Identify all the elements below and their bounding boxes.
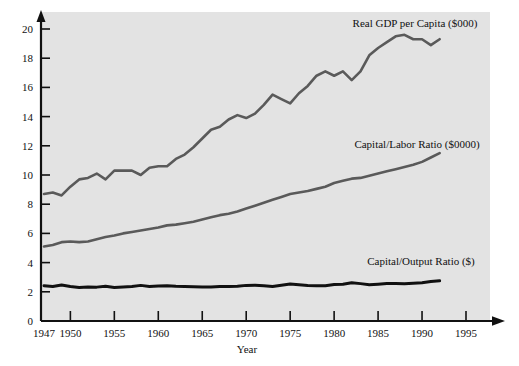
series-label: Real GDP per Capita ($000) <box>353 17 478 30</box>
y-tick-label: 2 <box>28 286 34 298</box>
economic-indicators-line-chart: 02468101214161820 1947195019551960196519… <box>0 0 519 366</box>
y-tick-label: 10 <box>22 169 34 181</box>
y-tick-label: 16 <box>22 81 34 93</box>
y-tick-label: 0 <box>28 315 34 327</box>
y-tick-label: 6 <box>28 227 34 239</box>
x-tick-label: 1947 <box>33 327 56 339</box>
x-tick-label: 1960 <box>147 327 170 339</box>
y-tick-label: 12 <box>22 140 33 152</box>
y-tick-label: 14 <box>22 111 34 123</box>
y-tick-label: 4 <box>28 257 34 269</box>
x-tick-label: 1985 <box>367 327 390 339</box>
x-tick-label: 1950 <box>59 327 82 339</box>
x-tick-label: 1990 <box>411 327 434 339</box>
y-tick-label: 20 <box>22 23 34 35</box>
x-tick-label: 1965 <box>191 327 214 339</box>
series-label: Capital/Output Ratio ($) <box>367 255 475 268</box>
y-tick-label: 8 <box>28 198 34 210</box>
x-tick-label: 1980 <box>323 327 346 339</box>
chart-figure: 02468101214161820 1947195019551960196519… <box>0 0 519 366</box>
x-axis-title: Year <box>237 343 258 355</box>
x-tick-label: 1975 <box>279 327 302 339</box>
x-tick-label: 1955 <box>103 327 126 339</box>
plot-background <box>41 12 490 321</box>
x-tick-label: 1970 <box>235 327 258 339</box>
series-label: Capital/Labor Ratio ($0000) <box>354 138 480 151</box>
y-tick-label: 18 <box>22 52 34 64</box>
x-tick-label: 1995 <box>455 327 478 339</box>
